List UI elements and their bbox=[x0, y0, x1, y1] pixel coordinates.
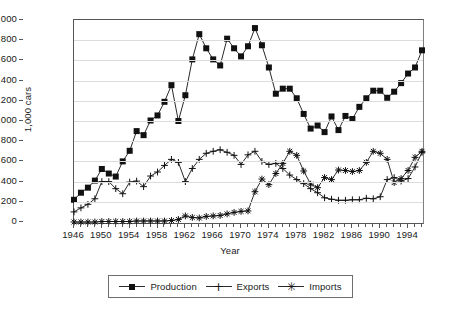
x-tick-mark bbox=[212, 224, 213, 228]
y-tick-label: 1,800 bbox=[0, 34, 17, 44]
legend-label: Imports bbox=[309, 281, 341, 292]
x-tick-mark bbox=[177, 224, 178, 227]
x-tick-mark bbox=[414, 224, 415, 227]
x-tick-mark bbox=[143, 224, 144, 227]
x-tick-mark bbox=[87, 224, 88, 227]
x-tick-mark bbox=[296, 224, 297, 228]
y-tick-mark bbox=[19, 80, 23, 81]
x-tick-mark bbox=[122, 224, 123, 227]
x-tick-mark bbox=[261, 224, 262, 227]
x-tick-mark bbox=[317, 224, 318, 227]
x-tick-mark bbox=[386, 224, 387, 227]
x-tick-mark bbox=[94, 224, 95, 227]
legend-label: Production bbox=[150, 281, 196, 292]
x-tick-mark bbox=[379, 224, 380, 228]
y-tick-label: 400 bbox=[1, 176, 17, 186]
x-tick-label: 1954 bbox=[118, 230, 140, 240]
y-tick-mark bbox=[19, 140, 23, 141]
x-tick-mark bbox=[372, 224, 373, 227]
y-tick-mark bbox=[19, 181, 23, 182]
y-tick-label: 1,600 bbox=[0, 55, 17, 65]
x-tick-mark bbox=[337, 224, 338, 227]
x-tick-mark bbox=[421, 224, 422, 227]
x-tick-mark bbox=[170, 224, 171, 227]
x-tick-mark bbox=[184, 224, 185, 228]
x-tick-mark bbox=[310, 224, 311, 227]
y-tick-label: 600 bbox=[1, 156, 17, 166]
x-tick-mark bbox=[268, 224, 269, 228]
x-tick-mark bbox=[331, 224, 332, 227]
x-tick-mark bbox=[136, 224, 137, 227]
y-tick-mark bbox=[19, 100, 23, 101]
x-tick-mark bbox=[226, 224, 227, 227]
gridlines bbox=[74, 20, 423, 223]
x-tick-mark bbox=[365, 224, 366, 227]
x-tick-mark bbox=[358, 224, 359, 227]
y-tick-label: 1,000 bbox=[0, 115, 17, 125]
plus-marker-icon: + bbox=[206, 281, 232, 292]
x-tick-mark bbox=[115, 224, 116, 227]
y-tick-label: 200 bbox=[1, 196, 17, 206]
x-tick-label: 1958 bbox=[146, 230, 168, 240]
x-tick-mark bbox=[80, 224, 81, 227]
y-tick-mark bbox=[19, 201, 23, 202]
x-tick-mark bbox=[219, 224, 220, 227]
gridline bbox=[74, 121, 423, 122]
gridline bbox=[74, 161, 423, 162]
x-tick-mark bbox=[400, 224, 401, 227]
x-tick-label: 1970 bbox=[229, 230, 251, 240]
legend-item-exports[interactable]: +Exports bbox=[206, 281, 270, 292]
plot-area bbox=[73, 19, 424, 224]
x-tick-mark bbox=[163, 224, 164, 227]
chart-figure: 1,000 cars 02004006008001,0001,2001,4001… bbox=[0, 0, 460, 314]
x-tick-label: 1950 bbox=[90, 230, 112, 240]
y-axis-title: 1,000 cars bbox=[22, 60, 33, 160]
x-tick-mark bbox=[73, 224, 74, 228]
x-tick-mark bbox=[205, 224, 206, 227]
square-marker-icon bbox=[119, 281, 145, 292]
legend-item-imports[interactable]: ✳Imports bbox=[278, 281, 341, 292]
x-tick-mark bbox=[101, 224, 102, 228]
x-tick-mark bbox=[198, 224, 199, 227]
x-tick-mark bbox=[157, 224, 158, 228]
y-tick-mark bbox=[19, 221, 23, 222]
x-tick-label: 1946 bbox=[62, 230, 84, 240]
x-tick-mark bbox=[303, 224, 304, 227]
gridline bbox=[74, 40, 423, 41]
gridline bbox=[74, 182, 423, 183]
x-tick-mark bbox=[191, 224, 192, 227]
x-tick-label: 1986 bbox=[341, 230, 363, 240]
x-tick-mark bbox=[108, 224, 109, 227]
y-tick-label: 800 bbox=[1, 135, 17, 145]
x-tick-label: 1978 bbox=[285, 230, 307, 240]
gridline bbox=[74, 202, 423, 203]
x-tick-mark bbox=[344, 224, 345, 227]
x-tick-mark bbox=[150, 224, 151, 227]
x-tick-mark bbox=[324, 224, 325, 228]
x-tick-label: 1974 bbox=[257, 230, 279, 240]
x-tick-mark bbox=[129, 224, 130, 228]
legend-item-production[interactable]: Production bbox=[119, 281, 196, 292]
x-tick-label: 1962 bbox=[174, 230, 196, 240]
y-tick-mark bbox=[19, 160, 23, 161]
y-tick-mark bbox=[19, 59, 23, 60]
x-tick-mark bbox=[289, 224, 290, 227]
legend-label: Exports bbox=[237, 281, 270, 292]
x-tick-mark bbox=[254, 224, 255, 227]
y-tick-label: 2,000 bbox=[0, 14, 17, 24]
x-tick-mark bbox=[407, 224, 408, 228]
gridline bbox=[74, 60, 423, 61]
x-tick-mark bbox=[351, 224, 352, 228]
gridline bbox=[74, 81, 423, 82]
y-tick-mark bbox=[19, 39, 23, 40]
y-tick-mark bbox=[19, 120, 23, 121]
x-tick-label: 1966 bbox=[201, 230, 223, 240]
y-axis: 1,000 cars 02004006008001,0001,2001,4001… bbox=[0, 0, 73, 230]
x-tick-mark bbox=[393, 224, 394, 227]
y-tick-label: 1,400 bbox=[0, 75, 17, 85]
x-tick-mark bbox=[282, 224, 283, 227]
y-tick-mark bbox=[19, 19, 23, 20]
asterisk-marker-icon: ✳ bbox=[278, 281, 304, 292]
x-tick-mark bbox=[247, 224, 248, 227]
x-tick-mark bbox=[275, 224, 276, 227]
